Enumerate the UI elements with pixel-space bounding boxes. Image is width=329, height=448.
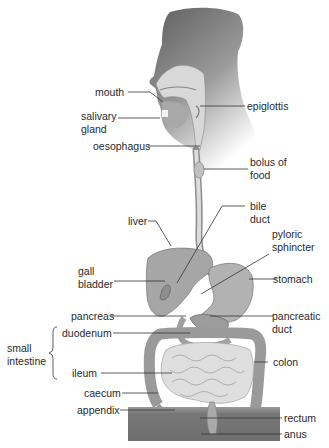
liver-shape (146, 248, 212, 316)
label-anus: anus (284, 428, 307, 441)
label-stomach: stomach (273, 273, 313, 286)
label-ileum: ileum (72, 367, 97, 380)
label-salivary-gland: salivary gland (81, 110, 117, 136)
label-epiglottis: epiglottis (247, 100, 288, 113)
label-colon: colon (273, 356, 298, 369)
label-small-intestine: small intestine (7, 342, 46, 368)
label-liver: liver (128, 215, 147, 228)
label-pancreatic-duct: pancreatic duct (272, 310, 320, 336)
label-caecum: caecum (84, 387, 121, 400)
label-duodenum: duodenum (62, 327, 112, 340)
label-mouth: mouth (95, 86, 124, 99)
label-appendix: appendix (77, 404, 120, 417)
small-intestine-brace (49, 327, 57, 379)
label-rectum: rectum (284, 412, 316, 425)
label-bolus-of-food: bolus of food (250, 156, 287, 182)
pelvis-band (128, 407, 280, 441)
label-pancreas: pancreas (71, 310, 114, 323)
bolus-shape (194, 162, 204, 178)
label-oesophagus: oesophagus (93, 140, 150, 153)
label-pyloric-sphincter: pyloric sphincter (272, 228, 315, 254)
label-gall-bladder: gall bladder (78, 265, 113, 291)
digestive-system-illustration (0, 0, 329, 448)
label-bile-duct: bile duct (250, 200, 270, 226)
